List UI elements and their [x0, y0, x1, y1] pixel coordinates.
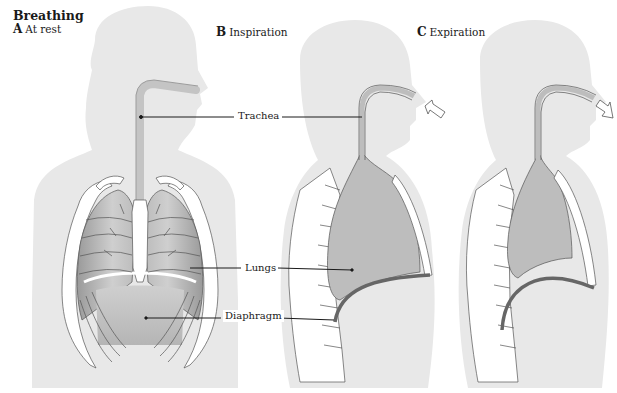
lungs-label: Lungs [243, 262, 278, 274]
panel-a-label: AAt rest [13, 22, 61, 36]
breathing-diagram [0, 0, 617, 393]
abdomen-front [96, 286, 184, 346]
panel-c-letter: C [417, 25, 427, 39]
figure-title: Breathing [13, 8, 84, 23]
panel-c-figure [459, 20, 613, 388]
panel-a-letter: A [13, 22, 22, 36]
panel-a-figure [32, 6, 238, 388]
panel-b-label: BInspiration [216, 25, 287, 39]
panel-b-letter: B [216, 25, 226, 39]
panel-b-figure [281, 20, 445, 388]
sternum [132, 200, 148, 282]
diaphragm-label: Diaphragm [223, 310, 284, 322]
panel-a-caption: At rest [25, 23, 61, 35]
panel-c-label: CExpiration [417, 25, 485, 39]
trachea-label: Trachea [236, 110, 281, 122]
panel-b-caption: Inspiration [229, 26, 287, 38]
air-in-arrow [425, 100, 445, 118]
panel-c-caption: Expiration [430, 26, 486, 38]
